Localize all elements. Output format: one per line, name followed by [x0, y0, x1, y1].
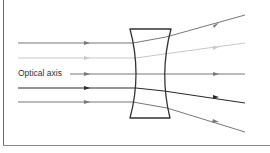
arrow-icon	[213, 72, 219, 76]
arrow-icon	[84, 56, 90, 60]
ray-5	[18, 100, 245, 132]
optical-axis-ray	[70, 72, 245, 76]
arrow-icon	[84, 100, 90, 104]
optical-axis-label: Optical axis	[18, 68, 62, 78]
arrow-icon	[84, 72, 90, 76]
arrow-icon	[84, 86, 90, 90]
ray-4	[18, 86, 245, 103]
ray-2	[18, 43, 245, 60]
arrow-icon	[212, 119, 219, 123]
arrow-icon	[84, 41, 90, 45]
ray-1	[18, 15, 245, 45]
